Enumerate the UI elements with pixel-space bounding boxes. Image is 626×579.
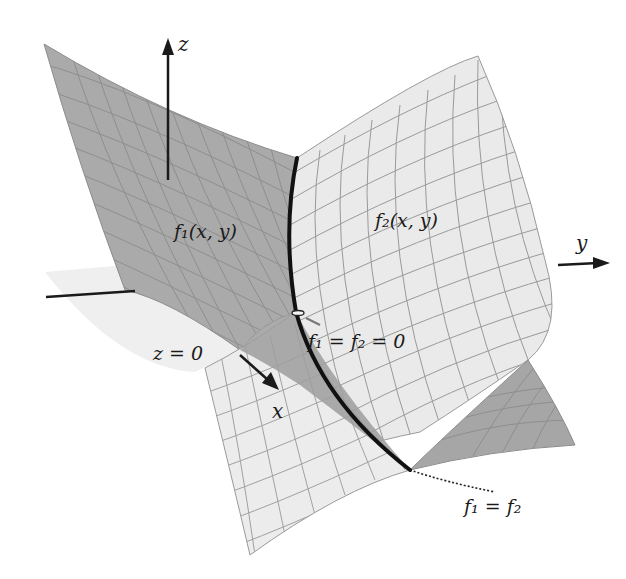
z-axis-label: z bbox=[178, 34, 189, 54]
x-axis-label: x bbox=[272, 401, 283, 421]
f2-surface-label: f₂(x, y) bbox=[375, 211, 438, 230]
y-axis-label: y bbox=[576, 233, 587, 253]
intersection-zero-label: f₁ = f₂ = 0 bbox=[308, 332, 405, 351]
intersection-curve-dotted bbox=[410, 470, 495, 492]
intersection-curve-label: f₁ = f₂ bbox=[464, 497, 521, 516]
surface-intersection-diagram bbox=[0, 0, 626, 579]
f1-surface-label: f₁(x, y) bbox=[174, 222, 237, 241]
zero-point-marker bbox=[292, 311, 304, 316]
y-axis bbox=[558, 257, 610, 269]
plane-label: z = 0 bbox=[153, 344, 203, 363]
